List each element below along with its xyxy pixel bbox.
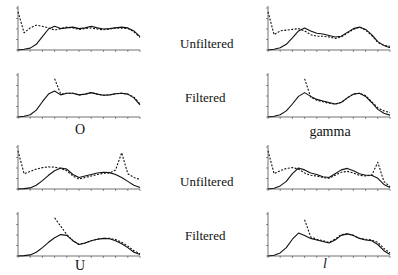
plot-U-unfiltered [14,145,140,197]
solid-series-line [268,93,390,117]
dashed-series-line [305,79,390,113]
solid-series-line [18,26,140,50]
caption-O: O [70,122,90,138]
solid-series-line [18,235,140,256]
dashed-series-line [18,151,140,180]
plot-O-unfiltered [14,6,140,58]
row-label-filtered-bottom: Filtered [185,228,225,244]
axes [268,6,390,50]
row-label-unfiltered-bottom: Unfiltered [180,174,233,190]
dashed-series-line [55,218,140,254]
dashed-series-line [55,79,140,104]
solid-series-line [268,233,390,256]
plot-gamma-filtered [264,73,390,125]
row-label-filtered-top: Filtered [185,90,225,106]
plot-gamma-unfiltered [264,6,390,58]
dashed-series-line [268,12,390,46]
solid-series-line [18,168,140,189]
dashed-series-line [18,12,140,38]
caption-U: U [70,258,90,274]
row-label-unfiltered-top: Unfiltered [180,36,233,52]
plot-U-filtered [14,212,140,264]
caption-gamma: gamma [300,124,360,140]
axes [268,145,390,189]
axes [18,145,140,189]
plot-O-filtered [14,73,140,125]
axes [268,212,390,256]
caption-l: l [315,256,335,272]
axes [18,212,140,256]
dashed-series-line [305,220,390,253]
plot-l-unfiltered [264,145,390,197]
